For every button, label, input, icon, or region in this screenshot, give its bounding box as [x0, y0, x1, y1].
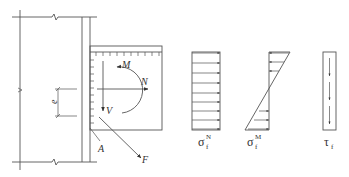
- moment-arc-icon: [117, 67, 143, 113]
- top-break-line: [12, 14, 97, 20]
- point-a-label: A: [97, 143, 105, 154]
- bottom-break-line: [12, 159, 97, 165]
- force-arrow-icon: [99, 117, 141, 158]
- column: [12, 10, 97, 170]
- moment-label: M: [121, 59, 131, 70]
- sigma-n-subscript: f: [206, 143, 209, 151]
- force-system: V N M F A: [90, 59, 149, 165]
- sigma-n-superscript: N: [206, 133, 211, 141]
- sigma-m-diagram: σ M f: [245, 52, 290, 151]
- shear-label: V: [106, 105, 114, 116]
- tau-subscript: f: [331, 143, 334, 151]
- tau-diagram: τ f: [323, 52, 336, 151]
- sigma-m-subscript: f: [255, 143, 258, 151]
- force-label: F: [141, 154, 149, 165]
- eccentricity-dimension: e: [48, 87, 77, 118]
- sigma-m-symbol: σ: [247, 135, 254, 149]
- sigma-m-superscript: M: [255, 133, 262, 141]
- sigma-n-symbol: σ: [198, 135, 205, 149]
- sigma-n-diagram: σ N f: [192, 52, 220, 151]
- eccentricity-label: e: [48, 99, 59, 104]
- tau-symbol: τ: [324, 135, 329, 149]
- diagram-canvas: e: [0, 0, 349, 177]
